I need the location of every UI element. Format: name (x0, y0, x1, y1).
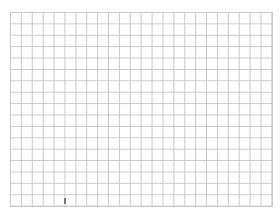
drawing-canvas[interactable] (0, 0, 280, 214)
pointer-cursor-icon (63, 198, 67, 204)
grid-area[interactable] (10, 12, 273, 207)
